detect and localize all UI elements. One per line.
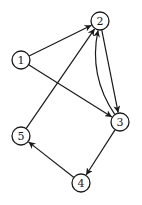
edge-1-to-3 [29, 65, 112, 117]
edge-2-to-3 [102, 30, 118, 113]
node-label: 2 [97, 15, 104, 28]
edge-3-to-4 [86, 130, 115, 175]
directed-graph: 12345 [0, 0, 142, 205]
node-label: 5 [18, 130, 25, 143]
edge-4-to-5 [28, 142, 73, 178]
node-label: 3 [117, 116, 124, 129]
node-label: 1 [18, 54, 25, 67]
node-1: 1 [12, 51, 30, 69]
edges-layer [26, 25, 118, 177]
node-label: 4 [78, 177, 85, 190]
edge-1-to-2 [29, 25, 91, 56]
node-4: 4 [72, 174, 90, 192]
node-3: 3 [111, 113, 129, 131]
edge-5-to-2 [26, 29, 95, 129]
nodes-layer: 12345 [12, 12, 129, 192]
node-2: 2 [91, 12, 109, 30]
node-5: 5 [12, 127, 30, 145]
edge-3-to-2 [95, 30, 114, 114]
